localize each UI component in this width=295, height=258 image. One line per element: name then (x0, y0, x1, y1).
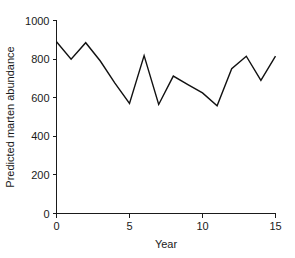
y-tick-label: 400 (31, 130, 49, 142)
x-tick-label: 0 (53, 220, 59, 232)
x-axis-title: Year (155, 238, 178, 250)
x-tick-label: 10 (196, 220, 208, 232)
y-tick-label: 1000 (25, 15, 49, 27)
x-tick-label: 5 (126, 220, 132, 232)
y-tick-label: 600 (31, 92, 49, 104)
y-tick-label: 200 (31, 169, 49, 181)
chart-figure: 02004006008001000 051015 Year Predicted … (0, 0, 295, 258)
x-tick-label: 15 (269, 220, 281, 232)
line-chart: 02004006008001000 051015 Year Predicted … (0, 0, 295, 258)
y-tick-label: 800 (31, 53, 49, 65)
y-axis-title: Predicted marten abundance (4, 46, 16, 187)
y-tick-label: 0 (43, 208, 49, 220)
